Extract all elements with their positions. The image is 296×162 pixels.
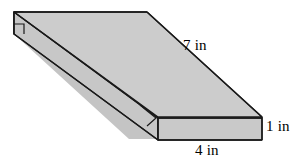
dimension-label-height: 1 in (266, 119, 290, 134)
dimension-label-length: 7 in (183, 38, 207, 53)
prism-front-face (158, 118, 262, 140)
prism-figure: 7 in 1 in 4 in (0, 0, 296, 162)
prism-drawing (0, 0, 296, 162)
dimension-label-width: 4 in (195, 143, 219, 158)
